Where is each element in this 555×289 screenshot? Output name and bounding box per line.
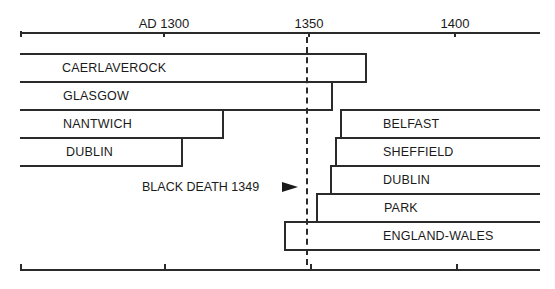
top-axis-line: [20, 32, 540, 34]
tick-label-1400: 1400: [441, 16, 470, 31]
bar-glasgow: GLASGOW: [20, 81, 333, 111]
bar-england-wales: ENGLAND-WALES: [284, 221, 540, 251]
bar-label-belfast: BELFAST: [383, 117, 439, 131]
bar-label-caerlaverock: CAERLAVEROCK: [62, 61, 166, 75]
bottom-axis-tick-1350: [310, 264, 312, 270]
bar-label-dublin-left: DUBLIN: [66, 145, 113, 159]
bottom-axis-line: [20, 269, 540, 271]
bar-label-dublin-right: DUBLIN: [383, 173, 430, 187]
bar-label-park: PARK: [384, 201, 418, 215]
black-death-label: BLACK DEATH 1349: [142, 180, 259, 194]
bar-dublin-right: DUBLIN: [330, 165, 540, 195]
tick-label-1350: 1350: [295, 16, 324, 31]
bar-belfast: BELFAST: [340, 109, 540, 139]
top-axis-tick-1300: [163, 32, 165, 37]
bottom-axis-start-tick: [20, 264, 22, 270]
bar-park: PARK: [316, 193, 540, 223]
tick-label-1300: AD 1300: [139, 16, 190, 31]
bar-caerlaverock: CAERLAVEROCK: [20, 53, 367, 83]
arrow-right-icon: [282, 182, 298, 192]
bar-label-sheffield: SHEFFIELD: [383, 145, 454, 159]
top-axis-tick-1400: [454, 32, 456, 37]
bar-nantwich: NANTWICH: [20, 109, 224, 139]
top-axis-start-tick: [20, 31, 22, 37]
bar-label-england-wales: ENGLAND-WALES: [383, 229, 494, 243]
bottom-axis-tick-1300: [164, 264, 166, 270]
bar-label-nantwich: NANTWICH: [63, 117, 132, 131]
bar-label-glasgow: GLASGOW: [63, 89, 129, 103]
bar-dublin-left: DUBLIN: [20, 137, 183, 167]
bar-sheffield: SHEFFIELD: [335, 137, 540, 167]
bottom-axis-tick-1400: [456, 264, 458, 270]
top-axis-tick-1350: [308, 32, 310, 37]
